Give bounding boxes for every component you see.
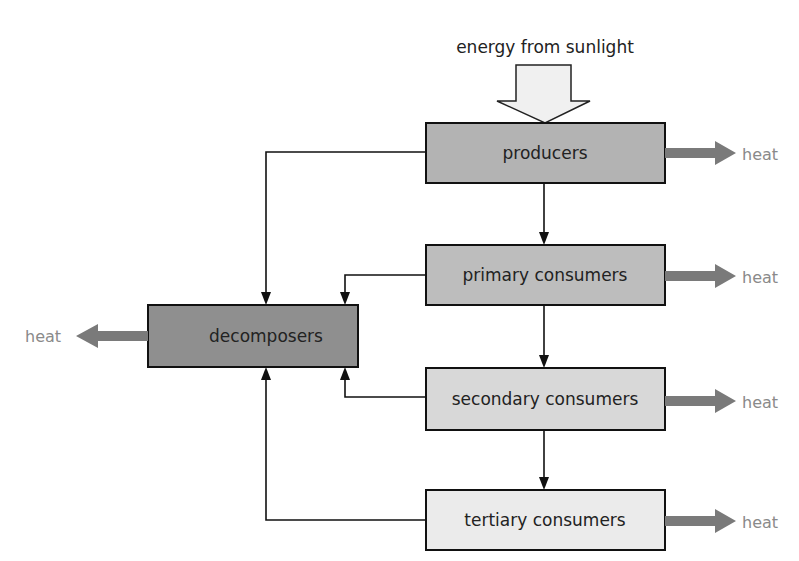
node-decomposers: decomposers [148,305,358,367]
node-label: producers [502,143,587,163]
heat-arrow [665,509,736,533]
heat-label: heat [742,513,778,532]
heat-label: heat [742,145,778,164]
node-label: tertiary consumers [464,510,626,530]
node-primary-consumers: primary consumers [426,245,665,305]
heat-label: heat [25,327,61,346]
heat-output-producers: heat [665,141,778,165]
arrowhead [261,292,271,305]
heat-label: heat [742,393,778,412]
heat-arrow [76,324,148,348]
node-producers: producers [426,123,665,183]
heat-arrow [665,264,736,288]
edge-primary-decomposers [345,275,426,293]
arrowhead [539,355,549,368]
heat-label: heat [742,268,778,287]
node-label: primary consumers [463,265,628,285]
heat-output-primary: heat [665,264,778,288]
energy-flow-diagram: energy from sunlight producers primary c… [0,0,799,561]
heat-output-decomposers: heat [25,324,148,348]
heat-arrow [665,389,736,413]
node-label: decomposers [209,326,323,346]
edge-secondary-decomposers [345,379,426,397]
arrowhead [340,367,350,380]
edge-tertiary-decomposers [266,379,426,520]
heat-arrow [665,141,736,165]
arrowhead [539,477,549,490]
arrowhead [340,292,350,305]
sunlight-arrow [497,65,590,123]
sunlight-label: energy from sunlight [456,37,634,57]
arrowhead [539,232,549,245]
arrowhead [261,367,271,380]
node-tertiary-consumers: tertiary consumers [426,490,665,550]
heat-output-tertiary: heat [665,509,778,533]
node-secondary-consumers: secondary consumers [426,368,665,430]
heat-output-secondary: heat [665,389,778,413]
edge-producers-decomposers [266,152,426,293]
node-label: secondary consumers [452,389,639,409]
